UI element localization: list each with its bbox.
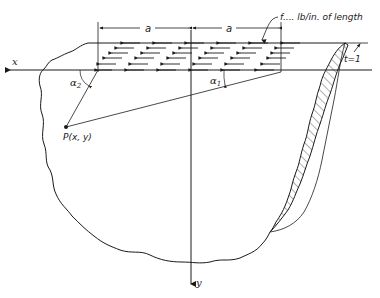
dimension-a-right: a (226, 23, 232, 34)
thickness-indicator (346, 43, 368, 52)
hatched-section (270, 43, 348, 232)
figure-container: x y a a f.... lb/in. of length (0, 0, 380, 298)
point-p-label: P(x, y) (63, 132, 92, 142)
distributed-load-arrows (98, 43, 300, 70)
y-axis-label: y (195, 277, 202, 288)
point-p-marker (64, 125, 68, 129)
alpha1-label: α1 (210, 75, 221, 88)
dimension-a-left: a (145, 23, 151, 34)
alpha2-arc (80, 70, 89, 86)
thickness-label: t=1 (344, 54, 361, 64)
x-axis-label: x (12, 56, 18, 67)
plate-outline (39, 43, 346, 263)
angle-lines (66, 70, 281, 127)
dimension-lines (98, 22, 281, 72)
alpha1-arc (224, 70, 225, 85)
plate-diagram: x y a a f.... lb/in. of length (0, 0, 380, 298)
alpha2-label: α2 (70, 77, 82, 90)
load-leader-line (262, 17, 278, 40)
load-label: f.... lb/in. of length (280, 12, 363, 22)
plate-top-left-edge (68, 43, 88, 70)
